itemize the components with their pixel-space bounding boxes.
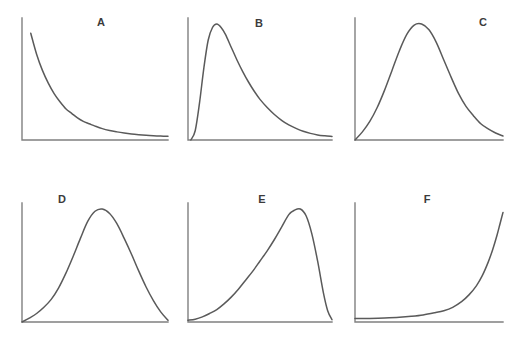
panel-b-label: B (255, 17, 263, 29)
panel-a-label: A (97, 16, 105, 28)
panel-e-label: E (258, 193, 265, 205)
panel-d-label: D (58, 193, 66, 205)
panel-c-label: C (479, 16, 487, 28)
distribution-shapes-figure: A B C D E F (0, 0, 523, 337)
panel-f-label: F (424, 193, 431, 205)
figure-background (0, 0, 523, 337)
